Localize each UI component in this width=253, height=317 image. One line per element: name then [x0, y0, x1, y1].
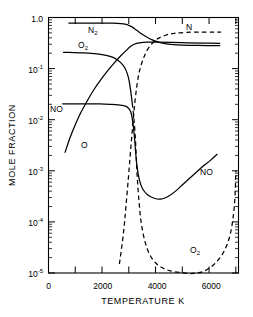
x-tick-label-4000: 4000	[148, 281, 167, 291]
x-tick-label-0: 0	[46, 281, 51, 291]
x-axis-title: TEMPERATURE K	[101, 296, 185, 306]
y-tick-label-1e-2: 10-2	[28, 115, 43, 126]
curve-label-o: O	[81, 140, 88, 150]
x-tick-label-6000: 6000	[202, 281, 221, 291]
curve-label-o2-right: O2	[190, 245, 201, 256]
y-tick-label-1: 1.0	[31, 14, 43, 24]
curve-label-n: N	[186, 22, 192, 32]
y-tick-label-1e-3: 10-3	[28, 166, 43, 177]
data-curves	[63, 23, 236, 274]
curve-label-no-right: NO	[200, 167, 213, 177]
y-tick-label-1e-5: 10-5	[28, 268, 43, 279]
curve-o	[65, 42, 220, 152]
curve-o2-low-branch	[63, 52, 132, 103]
curve-o2-high-branch	[132, 103, 236, 273]
curve-label-o2: O2	[78, 40, 89, 51]
figure-root: 1.0 10-1 10-2 10-3 10-4 10-5 0 2000 4000…	[0, 0, 253, 317]
curve-label-no-left: NO	[50, 104, 63, 114]
mole-fraction-vs-temperature-chart: 1.0 10-1 10-2 10-3 10-4 10-5 0 2000 4000…	[0, 0, 253, 317]
y-tick-label-1e-4: 10-4	[28, 217, 43, 228]
y-tick-labels: 1.0 10-1 10-2 10-3 10-4 10-5	[28, 14, 43, 279]
curve-label-n2: N2	[88, 25, 98, 36]
curve-no	[63, 104, 217, 199]
y-tick-label-1e-1: 10-1	[28, 64, 43, 75]
y-axis-title: MOLE FRACTION	[7, 104, 17, 186]
curve-n	[119, 32, 221, 264]
x-tick-label-2000: 2000	[93, 281, 112, 291]
x-tick-labels: 0 2000 4000 6000	[46, 281, 221, 291]
x-axis-ticks	[49, 18, 236, 274]
